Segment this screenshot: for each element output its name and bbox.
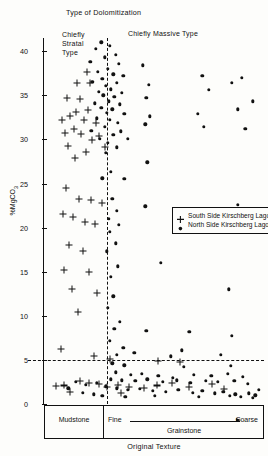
data-point-south xyxy=(89,137,96,144)
data-point-north xyxy=(207,88,210,91)
data-point-south xyxy=(53,383,60,390)
data-point-north xyxy=(146,378,149,381)
y-tick-label: 25 xyxy=(6,179,28,188)
data-point-north xyxy=(175,378,178,381)
data-point-north xyxy=(123,363,126,366)
data-point-south xyxy=(76,195,83,202)
data-point-south xyxy=(58,117,65,124)
data-point-north xyxy=(98,137,101,140)
data-point-north xyxy=(114,371,117,374)
data-point-south xyxy=(177,358,184,365)
texture-grainstone: Grainstone xyxy=(103,427,265,434)
chart-canvas: Type of Dolomitization ChieflyStratalTyp… xyxy=(0,0,268,456)
data-point-north xyxy=(197,395,200,398)
data-point-north xyxy=(234,393,237,396)
data-point-north xyxy=(143,123,146,126)
data-point-north xyxy=(236,203,239,206)
data-point-north xyxy=(108,339,111,342)
y-tick-label: 35 xyxy=(6,91,28,100)
data-point-north xyxy=(222,390,225,393)
data-point-south xyxy=(91,221,98,228)
data-point-north xyxy=(213,392,216,395)
data-point-north xyxy=(116,121,119,124)
data-point-north xyxy=(112,72,115,75)
legend-item-north: North Side Kirschberg Lagoon xyxy=(177,220,268,229)
data-point-north xyxy=(105,250,108,253)
legend-item-south: South Side Kirschberg Lagoon xyxy=(177,211,268,220)
data-point-north xyxy=(123,177,126,180)
data-point-south xyxy=(83,69,90,76)
data-point-north xyxy=(219,353,222,356)
y-tick-label: 0 xyxy=(6,400,28,409)
data-point-north xyxy=(257,388,260,391)
data-point-north xyxy=(204,379,207,382)
chart-title: Type of Dolomitization xyxy=(66,8,141,17)
data-point-south xyxy=(88,197,95,204)
data-point-south xyxy=(75,309,82,316)
data-point-north xyxy=(227,288,230,291)
data-point-north xyxy=(119,130,122,133)
data-point-north xyxy=(109,378,112,381)
data-point-north xyxy=(116,265,119,268)
data-point-north xyxy=(117,223,120,226)
dot-icon xyxy=(177,225,184,234)
data-point-south xyxy=(70,125,77,132)
data-point-north xyxy=(146,161,149,164)
data-point-north xyxy=(145,96,148,99)
data-point-north xyxy=(132,351,135,354)
data-point-north xyxy=(103,56,106,59)
data-point-south xyxy=(186,384,193,391)
data-point-north xyxy=(114,242,117,245)
data-point-south xyxy=(141,385,148,392)
data-point-north xyxy=(246,382,249,385)
data-point-north xyxy=(105,111,108,114)
data-point-north xyxy=(226,372,229,375)
data-point-north xyxy=(90,129,93,132)
data-point-north xyxy=(145,329,148,332)
data-point-north xyxy=(110,362,113,365)
data-point-south xyxy=(154,382,161,389)
data-point-north xyxy=(108,230,111,233)
data-point-south xyxy=(63,184,70,191)
data-point-north xyxy=(230,81,233,84)
data-point-north xyxy=(81,391,84,394)
data-point-south xyxy=(99,199,106,206)
data-point-north xyxy=(114,53,117,56)
data-point-north xyxy=(201,389,204,392)
data-point-north xyxy=(157,374,160,377)
data-point-south xyxy=(85,107,92,114)
texture-arrow-icon xyxy=(130,421,240,422)
data-point-north xyxy=(228,394,231,397)
data-point-south xyxy=(209,380,216,387)
data-point-south xyxy=(92,119,99,126)
data-point-north xyxy=(121,74,124,77)
data-point-south xyxy=(59,210,66,217)
data-point-north xyxy=(196,112,199,115)
data-point-south xyxy=(90,353,97,360)
data-point-south xyxy=(68,286,75,293)
data-point-north xyxy=(251,100,254,103)
data-point-north xyxy=(97,90,100,93)
data-point-north xyxy=(106,141,109,144)
data-point-north xyxy=(123,112,126,115)
data-point-north xyxy=(191,391,194,394)
data-point-north xyxy=(244,127,247,130)
data-point-north xyxy=(141,64,144,67)
data-point-north xyxy=(126,137,129,140)
data-point-north xyxy=(101,177,104,180)
data-point-north xyxy=(92,393,95,396)
data-point-south xyxy=(93,289,100,296)
data-point-north xyxy=(230,334,233,337)
legend-label-south: South Side Kirschberg Lagoon xyxy=(188,212,268,219)
data-point-north xyxy=(129,373,132,376)
data-point-south xyxy=(69,214,76,221)
data-point-south xyxy=(79,247,86,254)
data-point-north xyxy=(182,365,185,368)
data-point-north xyxy=(187,330,190,333)
data-point-south xyxy=(168,379,175,386)
texture-coarse: Coarse xyxy=(235,416,258,423)
data-point-north xyxy=(115,81,118,84)
data-point-north xyxy=(241,375,244,378)
data-point-north xyxy=(112,133,115,136)
data-point-south xyxy=(86,268,93,275)
